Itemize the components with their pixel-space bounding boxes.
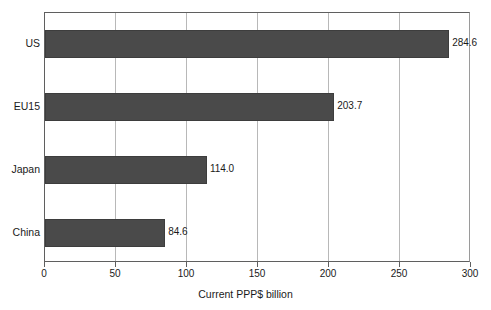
bar-chart: 284.6 203.7 114.0 84.6 US EU15 Japan Chi… — [0, 0, 491, 310]
tick-label-50: 50 — [109, 269, 120, 279]
x-axis-title: Current PPP$ billion — [0, 289, 491, 300]
tick-label-250: 250 — [391, 269, 408, 279]
tick-mark-0 — [44, 262, 45, 267]
tick-mark-50 — [115, 262, 116, 267]
tick-label-0: 0 — [41, 269, 47, 279]
category-label-us: US — [0, 38, 40, 49]
value-label-us: 284.6 — [452, 38, 477, 48]
tick-mark-150 — [257, 262, 258, 267]
tick-label-200: 200 — [320, 269, 337, 279]
category-label-japan: Japan — [0, 164, 40, 175]
value-label-china: 84.6 — [168, 227, 187, 237]
bar-us[interactable] — [45, 30, 449, 58]
tick-label-100: 100 — [178, 269, 195, 279]
tick-label-300: 300 — [462, 269, 479, 279]
plot-area — [44, 12, 470, 262]
tick-mark-250 — [399, 262, 400, 267]
value-label-japan: 114.0 — [210, 164, 234, 174]
tick-mark-300 — [470, 262, 471, 267]
category-label-china: China — [0, 227, 40, 238]
bar-eu15[interactable] — [45, 93, 334, 121]
category-label-eu15: EU15 — [0, 101, 40, 112]
tick-mark-100 — [186, 262, 187, 267]
tick-label-150: 150 — [249, 269, 266, 279]
bar-japan[interactable] — [45, 156, 207, 184]
bars-layer — [45, 13, 469, 261]
bar-china[interactable] — [45, 219, 165, 247]
value-label-eu15: 203.7 — [337, 101, 362, 111]
tick-mark-200 — [328, 262, 329, 267]
